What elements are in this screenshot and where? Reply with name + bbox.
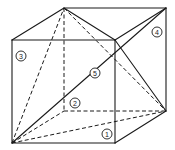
region-label-1: 1 <box>102 129 112 139</box>
edge-AH <box>12 111 64 143</box>
region-label-3: 3 <box>16 51 26 61</box>
label-text: 5 <box>93 70 97 77</box>
visible-edges <box>12 8 166 143</box>
edge-AG <box>12 111 166 143</box>
edge-AF <box>12 8 166 143</box>
region-label-5: 5 <box>90 68 100 78</box>
label-text: 4 <box>155 29 159 36</box>
edge-DE <box>12 8 64 40</box>
region-label-2: 2 <box>70 98 80 108</box>
region-labels: 1 2 3 4 5 <box>16 27 162 139</box>
edge-CG <box>115 40 166 111</box>
region-label-4: 4 <box>152 27 162 37</box>
label-text: 2 <box>73 100 77 107</box>
edge-AE <box>12 8 64 143</box>
cube-dissection-diagram: 1 2 3 4 5 <box>0 0 175 150</box>
label-text: 3 <box>19 53 23 60</box>
label-text: 1 <box>105 131 109 138</box>
edge-EC <box>64 8 115 40</box>
